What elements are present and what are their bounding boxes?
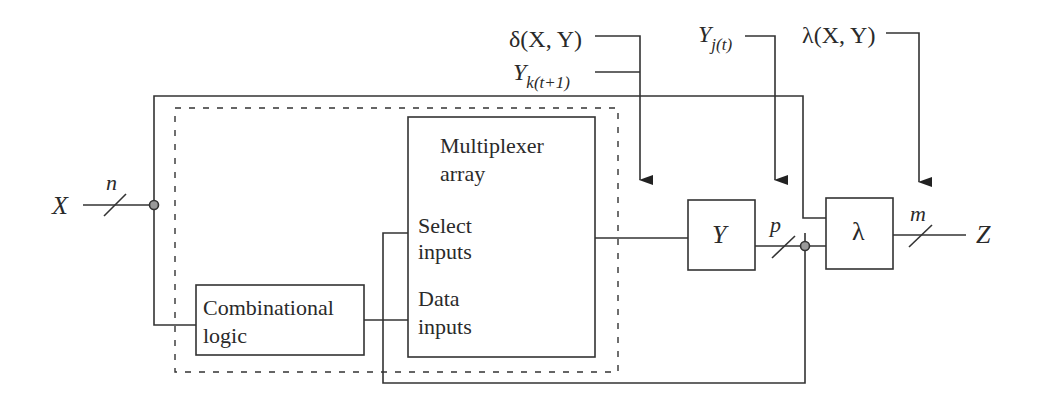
- diagram-canvas: X n Combinational logic Multiplexer arra…: [0, 0, 1043, 408]
- mux-title-line1: Multiplexer: [440, 133, 545, 158]
- lambda-arrow: [886, 33, 919, 182]
- input-x-label: X: [51, 191, 69, 220]
- comb-logic-line2: logic: [203, 323, 247, 348]
- junction-dot-x: [150, 201, 159, 210]
- state-bus-width-label: p: [768, 212, 781, 237]
- mux-data-line2: inputs: [418, 314, 472, 339]
- output-z-width-label: m: [910, 201, 926, 226]
- input-x: X n: [51, 170, 154, 220]
- bus-slash-p-icon: [772, 236, 795, 258]
- y-current-arrow: [745, 36, 775, 180]
- y-current-annotation: Yj(t): [698, 21, 732, 54]
- mux-select-line2: inputs: [418, 239, 472, 264]
- state-register-block: Y: [688, 200, 755, 270]
- junction-dot-state: [801, 242, 810, 251]
- y-next-annotation: Yk(t+1): [513, 59, 570, 92]
- bus-slash-m-icon: [909, 225, 932, 247]
- comb-logic-line1: Combinational: [203, 295, 334, 320]
- output-logic-block: λ: [826, 198, 893, 269]
- mux-title-line2: array: [440, 161, 485, 186]
- output-logic-label: λ: [852, 217, 865, 246]
- lambda-annotation: λ(X, Y): [802, 22, 875, 48]
- input-x-width-label: n: [106, 170, 117, 195]
- mux-select-line1: Select: [418, 213, 472, 238]
- state-register-label: Y: [712, 220, 729, 249]
- output-z-label: Z: [976, 220, 991, 249]
- mux-data-line1: Data: [418, 286, 460, 311]
- multiplexer-array-block: Multiplexer array Select inputs Data inp…: [408, 117, 595, 357]
- combinational-logic-block: Combinational logic: [196, 285, 364, 355]
- x-to-comb-logic-wire: [154, 205, 196, 325]
- delta-annotation: δ(X, Y): [509, 26, 582, 52]
